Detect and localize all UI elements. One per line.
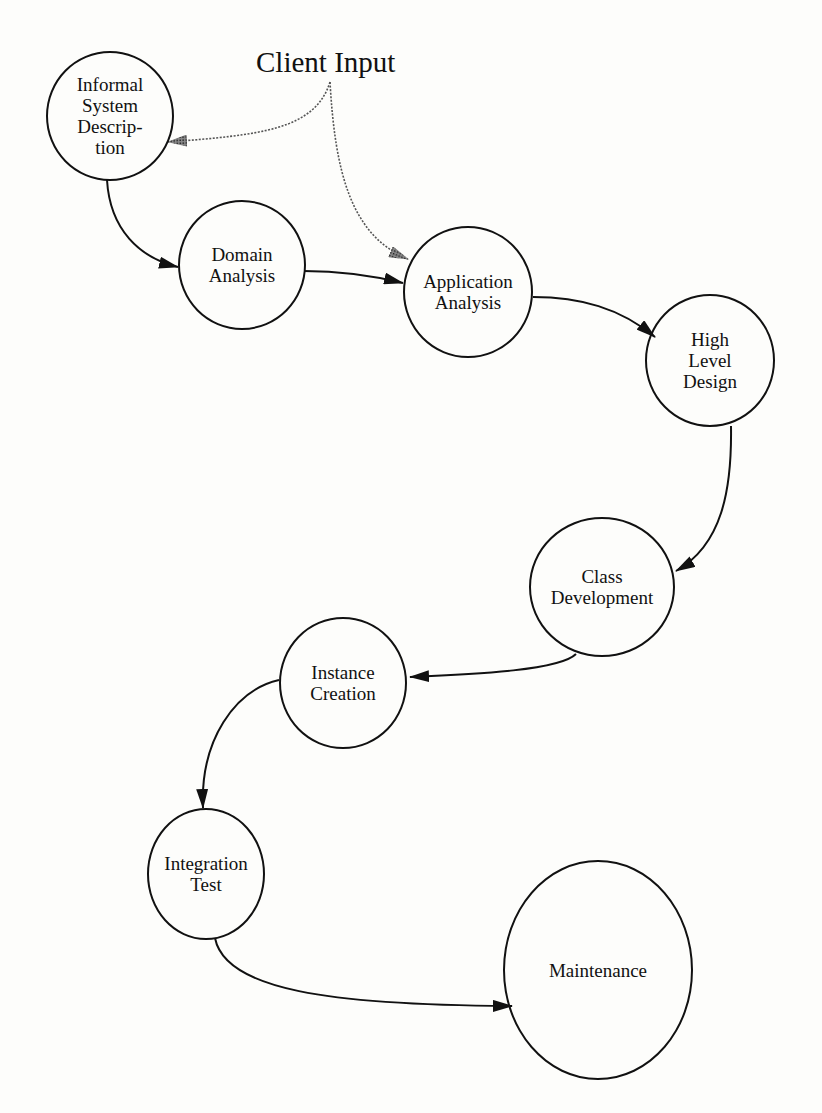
edge-integration-to-maintenance (215, 938, 512, 1006)
node-high-level-design[interactable]: High Level Design (645, 294, 775, 427)
edge-client-to-application (330, 82, 408, 259)
node-label: Maintenance (549, 960, 647, 981)
client-input-label: Client Input (256, 46, 395, 79)
node-label: Application Analysis (423, 271, 513, 313)
edge-highlevel-to-class (676, 426, 731, 571)
edge-informal-to-domain (107, 180, 178, 267)
node-informal-system-description[interactable]: Informal System Descrip- tion (46, 51, 174, 181)
edge-instance-to-integration (203, 680, 279, 808)
edge-client-to-informal (168, 82, 330, 142)
node-domain-analysis[interactable]: Domain Analysis (178, 200, 306, 330)
node-label: High Level Design (683, 329, 737, 392)
node-application-analysis[interactable]: Application Analysis (403, 226, 533, 358)
node-label: Instance Creation (310, 662, 375, 704)
node-integration-test[interactable]: Integration Test (147, 808, 265, 940)
edge-domain-to-application (304, 271, 403, 283)
node-label: Integration Test (164, 853, 247, 895)
node-label: Domain Analysis (209, 244, 276, 286)
node-label: Class Development (551, 566, 653, 608)
edge-class-to-instance (410, 654, 576, 677)
edge-application-to-highlevel (533, 297, 655, 337)
node-label: Informal System Descrip- tion (77, 74, 143, 158)
node-instance-creation[interactable]: Instance Creation (279, 617, 407, 749)
node-class-development[interactable]: Class Development (529, 517, 675, 657)
node-maintenance[interactable]: Maintenance (503, 860, 693, 1080)
